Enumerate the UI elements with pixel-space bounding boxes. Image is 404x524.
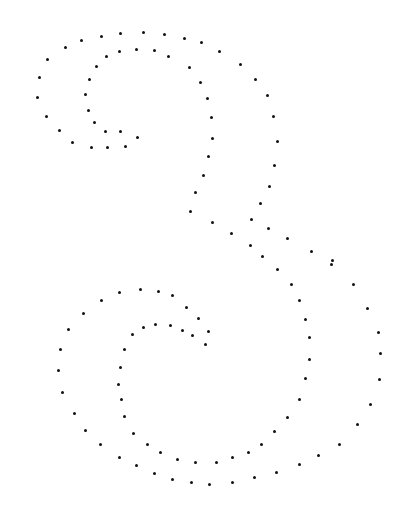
dot <box>123 348 126 351</box>
dot <box>273 430 276 433</box>
dot <box>188 66 191 69</box>
dot <box>73 412 76 415</box>
dot <box>215 461 218 464</box>
dot <box>118 291 121 294</box>
dot <box>298 463 301 466</box>
dot <box>298 299 301 302</box>
dot <box>171 294 174 297</box>
dot <box>304 318 307 321</box>
dot <box>206 97 209 100</box>
dot <box>46 58 49 61</box>
dot <box>163 33 166 36</box>
dot <box>61 391 64 394</box>
dot <box>377 331 380 334</box>
dot <box>207 330 210 333</box>
dot <box>154 323 157 326</box>
dot <box>159 451 162 454</box>
dot <box>330 263 333 266</box>
dot <box>197 317 200 320</box>
dot <box>105 55 108 58</box>
dot <box>266 94 269 97</box>
dot <box>272 115 275 118</box>
dot <box>308 358 311 361</box>
dot <box>124 145 127 148</box>
dot <box>38 76 41 79</box>
dot <box>153 472 156 475</box>
dot <box>106 146 109 149</box>
dot <box>90 146 93 149</box>
dot <box>268 185 271 188</box>
dot <box>204 343 207 346</box>
dot <box>88 78 91 81</box>
dot <box>366 307 369 310</box>
dot <box>82 312 85 315</box>
dot <box>202 174 205 177</box>
dot <box>176 458 179 461</box>
dot <box>167 55 170 58</box>
dot <box>135 48 138 51</box>
dot <box>254 78 257 81</box>
dot <box>84 93 87 96</box>
dot <box>369 403 372 406</box>
dot <box>142 31 145 34</box>
dot <box>183 37 186 40</box>
dot <box>211 221 214 224</box>
dot <box>118 50 121 53</box>
dot <box>356 423 359 426</box>
dot <box>304 377 307 380</box>
dot <box>157 290 160 293</box>
dot <box>276 268 279 271</box>
dot <box>231 481 234 484</box>
dot <box>99 443 102 446</box>
dot <box>230 232 233 235</box>
dot <box>169 324 172 327</box>
dot <box>100 299 103 302</box>
dot <box>67 328 70 331</box>
dot-to-dot-figure <box>0 0 404 524</box>
dot <box>231 456 234 459</box>
dot <box>199 81 202 84</box>
dot <box>118 456 121 459</box>
dot <box>191 334 194 337</box>
dot <box>286 416 289 419</box>
dot <box>119 366 122 369</box>
dot <box>119 130 122 133</box>
dot <box>64 46 67 49</box>
dot <box>298 398 301 401</box>
dot <box>218 50 221 53</box>
dot <box>93 121 96 124</box>
dot <box>249 244 252 247</box>
dot <box>207 155 210 158</box>
dot <box>185 306 188 309</box>
dot <box>171 478 174 481</box>
dot <box>267 227 270 230</box>
dot <box>261 255 264 258</box>
dot <box>260 443 263 446</box>
dot <box>290 283 293 286</box>
dot <box>308 336 311 339</box>
dot <box>153 49 156 52</box>
dot <box>120 398 123 401</box>
dot <box>310 250 313 253</box>
dot <box>100 35 103 38</box>
dot <box>84 429 87 432</box>
dot <box>87 109 90 112</box>
dot <box>210 116 213 119</box>
dot <box>276 140 279 143</box>
dot <box>104 130 107 133</box>
dot <box>45 115 48 118</box>
dot <box>273 164 276 167</box>
dot <box>194 461 197 464</box>
dot <box>123 415 126 418</box>
dot <box>317 454 320 457</box>
dot <box>208 483 211 486</box>
dot <box>239 63 242 66</box>
dot <box>36 96 39 99</box>
dot <box>59 348 62 351</box>
dot <box>142 326 145 329</box>
dot <box>58 129 61 132</box>
dot <box>136 136 139 139</box>
dot <box>190 481 193 484</box>
dot <box>95 65 98 68</box>
dot <box>275 471 278 474</box>
